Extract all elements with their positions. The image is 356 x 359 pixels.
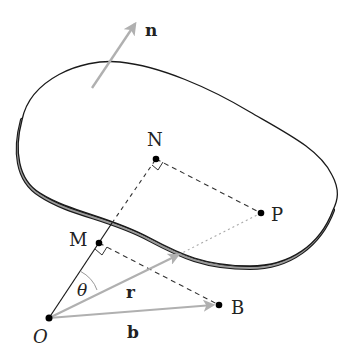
label-n: n: [145, 20, 157, 40]
diagram-svg: n N P M O B θ r b: [0, 0, 356, 359]
point-P: [258, 210, 265, 217]
point-M: [96, 240, 103, 247]
diagram-canvas: n N P M O B θ r b: [0, 0, 356, 359]
label-M: M: [69, 229, 87, 250]
label-theta: θ: [77, 280, 87, 300]
label-O: O: [33, 326, 48, 347]
point-N: [153, 156, 160, 163]
label-b: b: [127, 322, 139, 342]
surface-outline: [18, 62, 337, 266]
right-angle-mark-M: [95, 247, 107, 255]
label-r: r: [126, 282, 136, 302]
point-B: [216, 302, 223, 309]
point-O: [46, 315, 53, 322]
label-B: B: [231, 297, 244, 318]
label-N: N: [147, 129, 163, 150]
label-P: P: [271, 204, 283, 225]
